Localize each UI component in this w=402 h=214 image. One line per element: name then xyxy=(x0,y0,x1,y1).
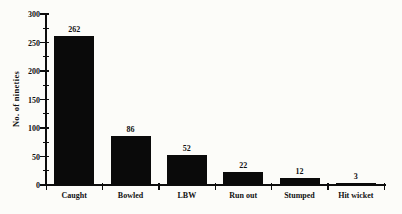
bar xyxy=(336,183,376,185)
y-minor-tick xyxy=(43,170,49,171)
bar-value-label: 12 xyxy=(271,167,327,176)
x-tick xyxy=(46,183,48,190)
y-major-tick xyxy=(40,42,49,44)
y-axis xyxy=(45,14,47,186)
y-major-tick xyxy=(40,99,49,101)
x-tick xyxy=(271,183,273,190)
bar-value-label: 262 xyxy=(46,25,102,34)
y-minor-tick xyxy=(43,113,49,114)
x-tick xyxy=(158,183,160,190)
y-tick-label: 250 xyxy=(10,39,40,48)
y-minor-tick xyxy=(43,56,49,57)
y-tick-label: 300 xyxy=(10,10,40,19)
bar-value-label: 86 xyxy=(102,125,158,134)
bar-value-label: 22 xyxy=(215,161,271,170)
bar-value-label: 52 xyxy=(159,144,215,153)
bar-chart-figure: No. of nineties 050100150200250300262Cau… xyxy=(0,0,402,214)
y-tick-label: 100 xyxy=(10,124,40,133)
bar-value-label: 3 xyxy=(328,172,384,181)
x-tick xyxy=(384,183,386,190)
x-tick xyxy=(215,183,217,190)
bar xyxy=(280,178,320,185)
y-tick-label: 50 xyxy=(10,153,40,162)
x-tick xyxy=(102,183,104,190)
bar xyxy=(111,136,151,185)
bar xyxy=(167,155,207,185)
plot-area: 050100150200250300262Caught86Bowled52LBW… xyxy=(0,0,402,214)
y-major-tick xyxy=(40,156,49,158)
bar xyxy=(223,172,263,185)
y-minor-tick xyxy=(43,142,49,143)
y-major-tick xyxy=(40,184,49,186)
y-tick-label: 200 xyxy=(10,67,40,76)
y-tick-label: 150 xyxy=(10,96,40,105)
x-category-label: Hit wicket xyxy=(322,191,390,200)
y-major-tick xyxy=(40,13,49,15)
x-tick xyxy=(327,183,329,190)
bar xyxy=(54,36,94,185)
y-major-tick xyxy=(40,127,49,129)
y-minor-tick xyxy=(43,85,49,86)
y-major-tick xyxy=(40,70,49,72)
y-tick-label: 0 xyxy=(10,181,40,190)
